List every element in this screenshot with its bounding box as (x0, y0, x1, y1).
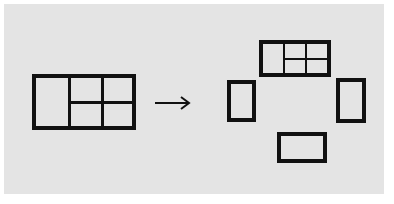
right-arrow-icon (154, 95, 192, 111)
result-bottom-panel (277, 132, 327, 163)
result-right-panel (336, 78, 366, 123)
diagram-panel (4, 4, 384, 194)
result-divider-horizontal (284, 58, 329, 60)
source-divider-horizontal (70, 101, 134, 104)
result-left-panel (227, 80, 256, 122)
